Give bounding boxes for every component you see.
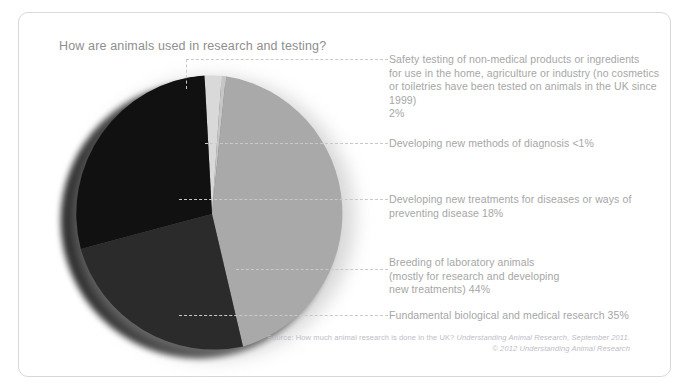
pie-svg: [73, 75, 351, 353]
chart-panel: How are animals used in research and tes…: [18, 12, 671, 377]
leader-line-breeding: [236, 269, 388, 270]
leader-line-fundamental: [179, 315, 388, 316]
copyright-line: © 2012 Understanding Animal Research: [267, 344, 630, 355]
pie-chart: [61, 71, 361, 361]
page-title: How are animals used in research and tes…: [59, 39, 326, 53]
leader-line-treatments: [179, 199, 388, 200]
label-safety-testing: Safety testing of non-medical products o…: [389, 53, 679, 121]
label-treatments: Developing new treatments for diseases o…: [389, 193, 679, 220]
source-line: Source: How much animal research is done…: [267, 333, 630, 344]
label-fundamental: Fundamental biological and medical resea…: [389, 309, 679, 323]
source-publication: Understanding Animal Research: [457, 333, 568, 342]
leader-line-diagnosis: [205, 143, 388, 144]
source-suffix: , September 2011.: [567, 333, 630, 342]
source-footer: Source: How much animal research is done…: [267, 333, 630, 354]
pie-slices: [73, 75, 351, 353]
label-diagnosis: Developing new methods of diagnosis <1%: [389, 137, 679, 151]
leader-line-safety-testing-vertical: [186, 59, 187, 89]
leader-line-safety-testing: [186, 59, 388, 60]
label-breeding: Breeding of laboratory animals (mostly f…: [389, 256, 679, 297]
source-prefix: Source: How much animal research is done…: [267, 333, 456, 342]
